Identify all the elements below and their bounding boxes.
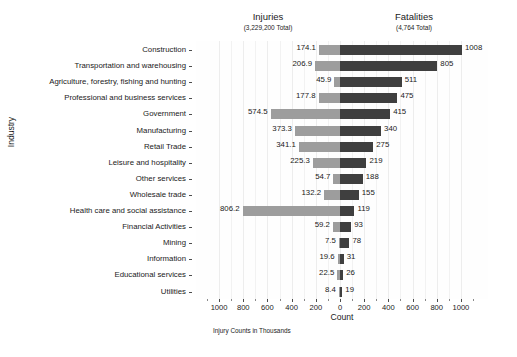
bar-value-fatalities: 155: [362, 188, 375, 197]
bar-value-injuries: 59.2: [315, 220, 330, 229]
bar-fatalities: [340, 93, 397, 103]
y-axis-tick: [189, 50, 192, 51]
bar-row: 8.419: [196, 284, 488, 300]
bar-row: 7.578: [196, 235, 488, 251]
x-axis-caption: Injury Counts in Thousands: [213, 327, 291, 334]
y-axis-tick: [189, 163, 192, 164]
x-axis-tick-minor: [231, 299, 232, 301]
bar-value-fatalities: 93: [354, 220, 363, 229]
x-axis-title: Count: [196, 312, 488, 322]
x-axis-tick: [437, 299, 438, 302]
bar-fatalities: [340, 45, 462, 55]
bar-fatalities: [340, 206, 354, 216]
y-axis-category-label: Wholesale trade: [130, 187, 186, 203]
x-axis-tick: [413, 299, 414, 302]
y-axis-tick: [189, 114, 192, 115]
injuries-panel-title: Injuries: [196, 12, 340, 23]
bar-value-injuries: 132.2: [302, 188, 322, 197]
bar-row: 177.8475: [196, 90, 488, 106]
bar-fatalities: [340, 270, 343, 280]
y-axis-category-label: Retail Trade: [144, 139, 186, 155]
bar-row: 22.526: [196, 267, 488, 283]
bar-value-injuries: 806.2: [220, 204, 240, 213]
y-axis-tick: [189, 292, 192, 293]
bar-fatalities: [340, 126, 381, 136]
bar-injuries: [299, 142, 340, 152]
x-axis-tick-minor: [376, 299, 377, 301]
bar-value-injuries: 8.4: [325, 285, 336, 294]
y-axis-tick: [189, 98, 192, 99]
y-axis-category-label: Educational services: [114, 267, 186, 283]
bar-value-injuries: 177.8: [296, 91, 316, 100]
fatalities-panel-total: (4,764 Total): [340, 24, 488, 31]
x-axis-tick-minor: [449, 299, 450, 301]
bar-value-injuries: 54.7: [315, 172, 330, 181]
bar-fatalities: [340, 222, 351, 232]
bar-injuries: [271, 109, 340, 119]
y-axis-category-label: Leisure and hospitality: [108, 155, 186, 171]
bar-value-fatalities: 219: [369, 156, 382, 165]
y-axis-category-label: Mining: [163, 235, 186, 251]
bar-row: 132.2155: [196, 187, 488, 203]
bar-row: 341.1275: [196, 139, 488, 155]
bar-value-fatalities: 188: [366, 172, 379, 181]
bar-value-fatalities: 805: [440, 59, 453, 68]
y-axis-category-label: Construction: [142, 42, 186, 58]
y-axis-category-label: Utilities: [161, 284, 186, 300]
x-axis-tick: [388, 299, 389, 302]
bar-value-fatalities: 78: [352, 236, 361, 245]
bar-value-fatalities: 26: [346, 268, 355, 277]
y-axis-tick: [189, 66, 192, 67]
y-axis-category-label: Other services: [136, 171, 186, 187]
x-axis-tick: [267, 299, 268, 302]
bar-value-fatalities: 19: [345, 285, 354, 294]
bar-fatalities: [340, 158, 366, 168]
bar-row: 574.5415: [196, 106, 488, 122]
bar-value-fatalities: 475: [400, 91, 413, 100]
bar-value-fatalities: 511: [405, 75, 417, 84]
bar-value-injuries: 7.5: [325, 236, 336, 245]
y-axis-title-text: Industry: [6, 86, 16, 178]
bar-row: 174.11008: [196, 42, 488, 58]
bar-row: 225.3219: [196, 155, 488, 171]
y-axis-tick: [189, 195, 192, 196]
bar-row: 373.3340: [196, 123, 488, 139]
y-axis-tick: [189, 259, 192, 260]
x-axis-tick: [340, 299, 341, 302]
panel-header-fatalities: Fatalities (4,764 Total): [340, 12, 488, 31]
bar-value-fatalities: 275: [376, 140, 389, 149]
bar-injuries: [315, 61, 340, 71]
bar-row: 206.9805: [196, 58, 488, 74]
bar-value-injuries: 22.5: [319, 268, 334, 277]
y-axis-tick: [189, 227, 192, 228]
y-axis-category-label: Health care and social assistance: [70, 203, 186, 219]
bar-fatalities: [340, 190, 359, 200]
y-axis-tick: [189, 131, 192, 132]
bar-fatalities: [340, 254, 344, 264]
y-axis-tick: [189, 147, 192, 148]
x-axis-tick: [243, 299, 244, 302]
y-axis-tick: [189, 275, 192, 276]
y-axis-category-label: Agriculture, forestry, fishing and hunti…: [49, 74, 186, 90]
bar-value-fatalities: 31: [347, 252, 356, 261]
bar-value-injuries: 574.5: [248, 107, 268, 116]
x-axis-tick-minor: [400, 299, 401, 301]
bar-injuries: [319, 93, 340, 103]
bar-injuries: [333, 222, 340, 232]
x-axis-tick: [316, 299, 317, 302]
x-axis-tick-minor: [255, 299, 256, 301]
bar-fatalities: [340, 287, 342, 297]
bar-row: 806.2119: [196, 203, 488, 219]
x-axis-tick: [219, 299, 220, 302]
x-axis-tick: [364, 299, 365, 302]
bar-value-injuries: 341.1: [276, 140, 296, 149]
x-axis-tick: [461, 299, 462, 302]
y-axis-tick: [189, 179, 192, 180]
bar-value-injuries: 225.3: [290, 156, 310, 165]
y-axis-category-label: Financial Activities: [122, 219, 186, 235]
bar-injuries: [295, 126, 340, 136]
bar-fatalities: [340, 142, 373, 152]
industry-injuries-fatalities-chart: Injuries (3,229,200 Total) Fatalities (4…: [0, 0, 517, 357]
y-axis-category-label: Information: [147, 251, 186, 267]
bar-value-injuries: 19.6: [319, 252, 334, 261]
